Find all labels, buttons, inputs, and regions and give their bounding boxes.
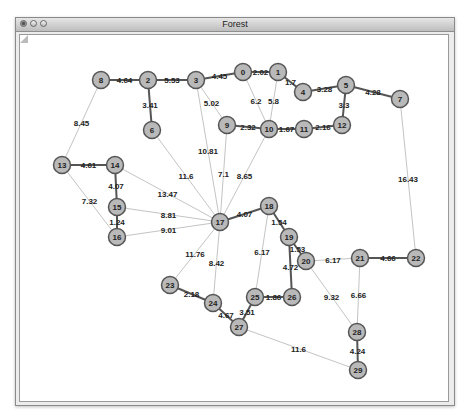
edge-weight-label: 3.3 xyxy=(338,101,350,110)
node-11[interactable]: 11 xyxy=(296,121,313,138)
edge-weight-label: 3.51 xyxy=(239,308,255,317)
edge-weight-label: 4.61 xyxy=(81,161,97,170)
node-9[interactable]: 9 xyxy=(219,117,236,134)
node-23[interactable]: 23 xyxy=(162,277,179,294)
node-27[interactable]: 27 xyxy=(231,319,248,336)
edge-weight-label: 6.17 xyxy=(254,248,270,257)
node-label: 14 xyxy=(111,161,120,170)
edge-weight-label: 4.45 xyxy=(212,72,228,81)
node-13[interactable]: 13 xyxy=(54,157,71,174)
app-window: Forest 012345678910111213141516171819202… xyxy=(15,17,455,406)
node-22[interactable]: 22 xyxy=(408,250,425,267)
node-6[interactable]: 6 xyxy=(144,122,161,139)
edge-weight-label: 6.66 xyxy=(351,291,367,300)
edge-weight-label: 8.81 xyxy=(161,211,177,220)
edge-weight-label: 2.02 xyxy=(253,68,269,77)
edge-weight-label: 4.07 xyxy=(108,182,124,191)
edge-weight-label: 11.6 xyxy=(291,345,307,354)
node-3[interactable]: 3 xyxy=(188,72,205,89)
edge-weight-label: 3.28 xyxy=(317,85,333,94)
node-1[interactable]: 1 xyxy=(270,64,287,81)
edge-weight-label: 4.67 xyxy=(218,311,234,320)
node-17[interactable]: 17 xyxy=(212,214,229,231)
edge-weight-label: 5.02 xyxy=(204,99,220,108)
node-2[interactable]: 2 xyxy=(140,72,157,89)
edge-weight-label: 11.6 xyxy=(178,172,194,181)
node-label: 8 xyxy=(99,76,104,85)
node-label: 15 xyxy=(113,203,122,212)
node-25[interactable]: 25 xyxy=(247,289,264,306)
node-label: 3 xyxy=(194,76,199,85)
node-24[interactable]: 24 xyxy=(205,295,222,312)
node-10[interactable]: 10 xyxy=(261,121,278,138)
edge-weight-label: 13.47 xyxy=(157,190,178,199)
node-label: 24 xyxy=(209,299,218,308)
edge-weight-label: 6.17 xyxy=(325,256,341,265)
node-0[interactable]: 0 xyxy=(235,64,252,81)
node-label: 26 xyxy=(288,293,297,302)
edge-weight-label: 1.54 xyxy=(271,218,287,227)
node-5[interactable]: 5 xyxy=(338,77,355,94)
edge-weight-label: 4.64 xyxy=(117,76,133,85)
edge-weight-label: 5.53 xyxy=(164,76,180,85)
node-label: 6 xyxy=(150,126,155,135)
node-label: 23 xyxy=(166,281,175,290)
edge-weight-label: 1.24 xyxy=(109,218,125,227)
node-label: 2 xyxy=(146,76,151,85)
edge-weight-label: 2.16 xyxy=(315,123,331,132)
edge-weight-label: 7.32 xyxy=(82,197,98,206)
edge-weight-label: 5.8 xyxy=(268,97,280,106)
node-label: 10 xyxy=(265,125,274,134)
node-label: 9 xyxy=(225,121,230,130)
node-28[interactable]: 28 xyxy=(349,324,366,341)
node-4[interactable]: 4 xyxy=(295,84,312,101)
node-label: 4 xyxy=(301,88,306,97)
edge-weight-label: 1.7 xyxy=(285,78,297,87)
node-18[interactable]: 18 xyxy=(261,198,278,215)
title-bar[interactable]: Forest xyxy=(16,18,454,32)
node-16[interactable]: 16 xyxy=(109,229,126,246)
forest-graph: 0123456789101112131415161718192021222324… xyxy=(20,35,448,401)
node-label: 21 xyxy=(356,254,365,263)
edge-weight-label: 3.41 xyxy=(142,101,158,110)
node-label: 19 xyxy=(285,233,294,242)
edge-weight-label: 4.07 xyxy=(237,210,253,219)
node-label: 5 xyxy=(344,81,349,90)
node-12[interactable]: 12 xyxy=(334,117,351,134)
node-8[interactable]: 8 xyxy=(93,72,110,89)
node-label: 17 xyxy=(216,218,225,227)
edge-weight-label: 1.67 xyxy=(279,125,295,134)
graph-canvas[interactable]: 0123456789101112131415161718192021222324… xyxy=(19,34,449,402)
edge-weight-label: 10.81 xyxy=(198,147,219,156)
edge-weight-label: 6.2 xyxy=(250,97,262,106)
edge-weight-label: 2.18 xyxy=(184,290,200,299)
edge-weight-label: 9.32 xyxy=(324,293,340,302)
node-label: 18 xyxy=(265,202,274,211)
node-label: 1 xyxy=(276,68,281,77)
node-20[interactable]: 20 xyxy=(298,253,315,270)
node-label: 7 xyxy=(398,95,403,104)
edge-weight-label: 2.32 xyxy=(240,123,256,132)
edge-weight-label: 4.66 xyxy=(380,254,396,263)
edge-weight-label: 7.1 xyxy=(218,170,230,179)
edge-weight-label: 1.53 xyxy=(290,245,306,254)
node-21[interactable]: 21 xyxy=(352,250,369,267)
node-14[interactable]: 14 xyxy=(107,157,124,174)
node-26[interactable]: 26 xyxy=(284,289,301,306)
node-15[interactable]: 15 xyxy=(109,199,126,216)
edge-weight-label: 16.43 xyxy=(398,175,419,184)
node-19[interactable]: 19 xyxy=(281,229,298,246)
node-label: 12 xyxy=(338,121,347,130)
edge-weight-label: 8.65 xyxy=(237,172,253,181)
edge-weight-label: 11.76 xyxy=(185,250,205,259)
edge-weight-label: 4.24 xyxy=(350,347,366,356)
node-label: 16 xyxy=(113,233,122,242)
edge-weight-label: 9.01 xyxy=(161,226,177,235)
node-7[interactable]: 7 xyxy=(392,91,409,108)
edge-weight-label: 4.28 xyxy=(365,88,381,97)
edge-weight-label: 1.86 xyxy=(266,293,282,302)
node-label: 28 xyxy=(353,328,362,337)
node-29[interactable]: 29 xyxy=(350,362,367,379)
node-label: 20 xyxy=(302,257,311,266)
resize-grip-icon[interactable] xyxy=(20,35,28,43)
